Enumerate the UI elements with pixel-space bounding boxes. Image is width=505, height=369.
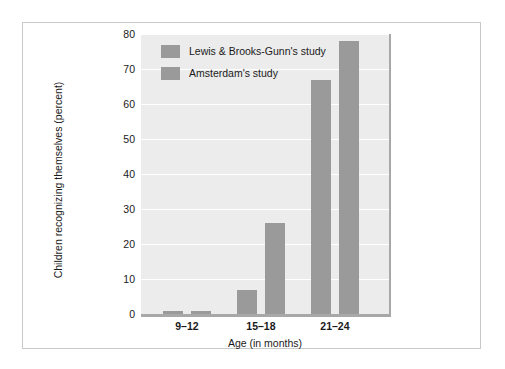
x-axis-line xyxy=(141,314,391,317)
y-axis-ticks: 01020304050607080 xyxy=(107,34,135,314)
y-tick-label: 0 xyxy=(109,309,135,319)
bar-chart: 01020304050607080 9–1215–1821–24 Childre… xyxy=(23,23,482,350)
y-tick-label: 60 xyxy=(109,99,135,109)
legend-label: Lewis & Brooks-Gunn's study xyxy=(189,45,326,57)
bar xyxy=(237,290,257,315)
bar xyxy=(265,223,285,314)
legend: Lewis & Brooks-Gunn's studyAmsterdam's s… xyxy=(161,42,326,86)
y-tick-label: 70 xyxy=(109,64,135,74)
y-tick-label: 50 xyxy=(109,134,135,144)
bar xyxy=(339,41,359,314)
legend-swatch-icon xyxy=(161,45,180,58)
x-axis-title: Age (in months) xyxy=(141,337,389,349)
y-tick-label: 30 xyxy=(109,204,135,214)
y-tick-label: 20 xyxy=(109,239,135,249)
legend-item: Lewis & Brooks-Gunn's study xyxy=(161,42,326,60)
legend-label: Amsterdam's study xyxy=(189,67,278,79)
x-tick-label: 21–24 xyxy=(305,320,365,332)
bar xyxy=(311,80,331,315)
x-tick-label: 9–12 xyxy=(157,320,217,332)
legend-item: Amsterdam's study xyxy=(161,64,326,82)
y-tick-label: 80 xyxy=(109,29,135,39)
y-axis-title: Children recognizing themselves (percent… xyxy=(52,75,64,285)
y-tick-label: 40 xyxy=(109,169,135,179)
x-tick-label: 15–18 xyxy=(231,320,291,332)
figure-frame: 01020304050607080 9–1215–1821–24 Childre… xyxy=(22,22,481,349)
x-axis-ticks: 9–1215–1821–24 xyxy=(141,320,389,336)
y-tick-label: 10 xyxy=(109,274,135,284)
legend-swatch-icon xyxy=(161,67,180,80)
